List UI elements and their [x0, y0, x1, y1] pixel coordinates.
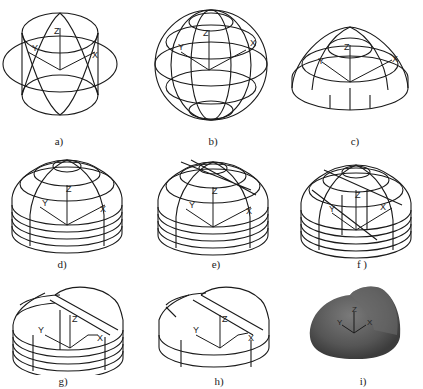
dome-construction-figure: Z Y X a) Z Y X b)	[0, 0, 423, 389]
axis-x-label: X	[250, 38, 256, 48]
axis-z-label: Z	[344, 42, 350, 52]
panel-b-drawing: Z Y X	[141, 0, 282, 135]
axis-x-label: X	[246, 206, 252, 216]
panel-h: Z Y X	[141, 275, 282, 375]
axis-y-label: Y	[318, 56, 324, 66]
panel-a: Z Y X	[0, 0, 141, 130]
axis-z-label: Z	[72, 314, 78, 324]
panel-g-label: g)	[58, 375, 67, 387]
panel-f-label: f )	[357, 258, 367, 270]
panel-g: Z Y X	[0, 275, 141, 375]
axis-y-label: Y	[193, 325, 199, 335]
panel-d-drawing: Z Y X	[0, 150, 141, 260]
panel-a-label: a)	[55, 135, 64, 147]
panel-i-drawing: Z Y X	[282, 275, 423, 375]
panel-g-drawing: Z Y X	[0, 275, 141, 375]
panel-h-drawing: Z Y X	[141, 275, 282, 375]
panel-b-label: b)	[208, 135, 217, 147]
panel-f-drawing: Z Y X	[282, 150, 423, 260]
axis-x-label: X	[380, 202, 386, 212]
axis-x-label: X	[367, 318, 373, 327]
panel-c-drawing: Z Y X	[282, 0, 423, 135]
panel-a-drawing: Z Y X	[0, 0, 141, 130]
axis-z-label: Z	[66, 184, 72, 194]
panel-d-label: d)	[57, 258, 66, 270]
axis-y-label: Y	[189, 200, 195, 210]
panel-i-label: i)	[360, 375, 367, 387]
axis-x-label: X	[92, 50, 98, 60]
axis-y-label: Y	[178, 42, 184, 52]
axis-z-label: Z	[203, 28, 209, 38]
panel-b: Z Y X	[141, 0, 282, 135]
axis-y-label: Y	[337, 318, 343, 327]
panel-h-label: h)	[214, 375, 223, 387]
panel-e: Z Y X	[141, 150, 282, 260]
axis-z-label: Z	[355, 190, 361, 200]
panel-c-label: c)	[351, 135, 360, 147]
axis-x-label: X	[100, 204, 106, 214]
axis-x-label: X	[392, 54, 398, 64]
panel-c: Z Y X	[282, 0, 423, 135]
axis-y-label: Y	[32, 43, 38, 53]
axis-x-label: X	[248, 333, 254, 343]
axis-z-label: Z	[54, 26, 60, 36]
axis-z-label: Z	[222, 314, 228, 324]
panel-d: Z Y X	[0, 150, 141, 260]
axis-y-label: Y	[38, 325, 44, 335]
axis-y-label: Y	[329, 204, 335, 214]
axis-y-label: Y	[42, 198, 48, 208]
panel-e-drawing: Z Y X	[141, 150, 282, 260]
axis-x-label: X	[97, 333, 103, 343]
panel-i: Z Y X	[282, 275, 423, 375]
panel-f: Z Y X	[282, 150, 423, 260]
axis-z-label: Z	[352, 305, 357, 314]
panel-e-label: e)	[212, 258, 221, 270]
axis-z-label: Z	[212, 186, 218, 196]
